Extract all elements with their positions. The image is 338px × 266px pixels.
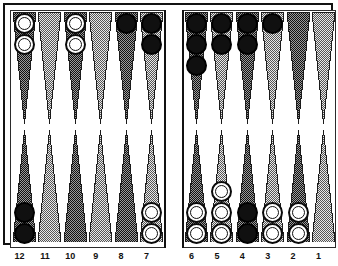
point-bottom-left-3[interactable] [63,129,88,246]
board-half-right [184,12,336,246]
checker-white[interactable] [288,223,309,244]
point-bottom-right-1[interactable] [184,129,209,246]
board-bar[interactable] [164,10,184,248]
point-bottom-right-4[interactable] [260,129,285,246]
point-top-left-6[interactable] [139,12,164,129]
point-bottom-right-2[interactable] [209,129,234,246]
point-top-right-1[interactable] [184,12,209,129]
point-triangle-dark [63,129,88,242]
checker-white[interactable] [262,223,283,244]
point-top-right-5[interactable] [286,12,311,129]
checker-stack[interactable] [236,202,259,244]
point-top-left-1[interactable] [12,12,37,129]
checker-black[interactable] [14,223,35,244]
quadrant-top-left [12,12,164,129]
point-top-left-3[interactable] [63,12,88,129]
board-half-left [12,12,164,246]
checker-white[interactable] [186,202,207,223]
point-number-left-10: 10 [58,248,83,264]
point-number-right-3: 3 [255,248,280,264]
point-number-right-1: 1 [306,248,331,264]
point-top-right-3[interactable] [235,12,260,129]
quadrant-bottom-left [12,129,164,246]
checker-black[interactable] [141,13,162,34]
checker-white[interactable] [211,202,232,223]
checker-stack[interactable] [140,13,163,55]
checker-white[interactable] [288,202,309,223]
point-number-right-5: 5 [204,248,229,264]
checker-black[interactable] [211,13,232,34]
checker-stack[interactable] [287,202,310,244]
checker-stack[interactable] [13,202,36,244]
checker-stack[interactable] [210,181,233,244]
point-triangle-light [37,12,62,125]
point-bottom-left-6[interactable] [139,129,164,246]
point-number-left-9: 9 [83,248,108,264]
point-triangle-light [311,129,336,242]
point-top-right-4[interactable] [260,12,285,129]
checker-stack[interactable] [64,13,87,55]
checker-black[interactable] [237,223,258,244]
point-triangle-light [37,129,62,242]
point-top-left-4[interactable] [88,12,113,129]
point-bottom-left-1[interactable] [12,129,37,246]
point-bottom-right-6[interactable] [311,129,336,246]
checker-black[interactable] [237,13,258,34]
checker-white[interactable] [186,223,207,244]
checker-black[interactable] [262,13,283,34]
point-bottom-right-5[interactable] [286,129,311,246]
checker-stack[interactable] [261,202,284,244]
point-triangle-dark [114,129,139,242]
point-number-left-8: 8 [109,248,134,264]
checker-stack[interactable] [140,202,163,244]
checker-black[interactable] [237,202,258,223]
backgammon-board: 121110987 654321 [0,0,338,266]
point-triangle-light [311,12,336,125]
checker-black[interactable] [186,13,207,34]
checker-stack[interactable] [185,202,208,244]
point-numbers-left: 121110987 [7,248,159,264]
checker-stack[interactable] [13,13,36,55]
point-top-right-6[interactable] [311,12,336,129]
checker-white[interactable] [262,202,283,223]
checker-stack[interactable] [236,13,259,55]
checker-white[interactable] [141,223,162,244]
checker-black[interactable] [237,34,258,55]
checker-black[interactable] [186,55,207,76]
checker-black[interactable] [186,34,207,55]
checker-white[interactable] [14,34,35,55]
checker-white[interactable] [211,181,232,202]
checker-black[interactable] [211,34,232,55]
point-triangle-dark [286,12,311,125]
point-top-left-5[interactable] [114,12,139,129]
point-top-left-2[interactable] [37,12,62,129]
checker-white[interactable] [65,13,86,34]
point-number-right-4: 4 [230,248,255,264]
point-bottom-left-2[interactable] [37,129,62,246]
point-number-strip: 121110987 654321 [3,248,333,264]
point-bottom-left-4[interactable] [88,129,113,246]
quadrant-top-right [184,12,336,129]
point-number-left-7: 7 [134,248,159,264]
point-numbers-right: 654321 [179,248,331,264]
checker-stack[interactable] [210,13,233,55]
point-top-right-2[interactable] [209,12,234,129]
quadrant-bottom-right [184,129,336,246]
board-outer-frame [3,3,333,245]
point-number-left-11: 11 [32,248,57,264]
checker-black[interactable] [141,34,162,55]
checker-stack[interactable] [115,13,138,34]
checker-black[interactable] [14,202,35,223]
checker-white[interactable] [141,202,162,223]
point-triangle-light [88,129,113,242]
point-number-right-2: 2 [281,248,306,264]
checker-white[interactable] [211,223,232,244]
checker-stack[interactable] [185,13,208,76]
point-bottom-right-3[interactable] [235,129,260,246]
checker-stack[interactable] [261,13,284,34]
checker-black[interactable] [116,13,137,34]
checker-white[interactable] [14,13,35,34]
checker-white[interactable] [65,34,86,55]
point-triangle-light [88,12,113,125]
point-bottom-left-5[interactable] [114,129,139,246]
